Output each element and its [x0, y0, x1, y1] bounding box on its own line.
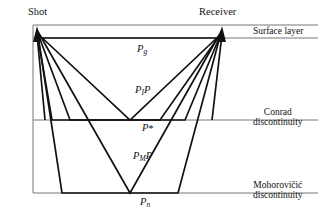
- phase-label-pg: Pg: [137, 43, 147, 54]
- moho-label-line-2: discontinuity: [253, 191, 303, 201]
- ray-pstar-conrad-headwave: [37, 31, 222, 120]
- source-fan-wedges: [33, 26, 226, 42]
- receiver-label: Receiver: [199, 6, 236, 17]
- surface-layer-label: Surface layer: [253, 27, 303, 37]
- phase-pg-subscript: g: [143, 47, 147, 56]
- ray-pn-moho-headwave: [37, 29, 222, 193]
- phase-pmp-main-b: P: [146, 150, 152, 161]
- ray-pmp-moho-reflection: [37, 30, 222, 193]
- seismic-ray-path-diagram: Shot Receiver Surface layer Conrad disco…: [0, 0, 333, 216]
- moho-label-line-1: Mohorovičić: [253, 180, 302, 190]
- phase-label-pip: PIP: [135, 84, 150, 95]
- conrad-label-line-2: discontinuity: [253, 118, 303, 128]
- conrad-label-line-1: Conrad: [264, 107, 292, 117]
- moho-discontinuity-label: Mohorovičić discontinuity: [253, 181, 303, 201]
- phase-pip-main-b: P: [144, 84, 150, 95]
- phase-pmp-subscript: M: [139, 154, 145, 163]
- phase-pip-subscript: I: [141, 88, 144, 97]
- phase-label-pn: Pn: [140, 196, 150, 207]
- phase-pn-subscript: n: [146, 200, 150, 209]
- ray-paths-group: [37, 29, 222, 193]
- phase-pstar-asterisk: *: [148, 123, 153, 134]
- phase-label-pstar: P*: [142, 122, 153, 134]
- phase-label-pmp: PMP: [133, 150, 152, 161]
- shot-label: Shot: [28, 6, 47, 17]
- conrad-discontinuity-label: Conrad discontinuity: [253, 108, 303, 128]
